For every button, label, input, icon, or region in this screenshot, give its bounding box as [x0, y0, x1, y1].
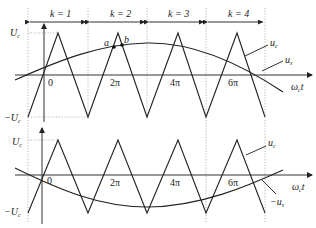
interval-label-k1: k = 1 — [50, 8, 71, 19]
bottom-neg-uc-label: −Uc — [4, 206, 21, 218]
point-a — [112, 45, 116, 49]
interval-label-k4: k = 4 — [228, 8, 249, 19]
top-tick-2pi: 2π — [110, 77, 120, 88]
top-tick-4pi: 4π — [170, 77, 180, 88]
top-uc-curve-label: uc — [270, 37, 278, 49]
interval-label-k3: k = 3 — [168, 8, 189, 19]
bottom-tick-4pi: 4π — [170, 177, 180, 188]
top-neg-uc-label: −Uc — [4, 112, 21, 124]
bottom-tick-6pi: 6π — [228, 177, 238, 188]
bottom-tick-2pi: 2π — [110, 177, 120, 188]
top-tick-6pi: 6π — [228, 77, 238, 88]
bottom-neg-signal-curve — [15, 168, 283, 207]
point-b-label: b — [124, 34, 129, 45]
bottom-x-axis-label: ωct — [292, 181, 305, 193]
top-us-curve-label: us — [285, 54, 293, 66]
bottom-uc-curve-label: uc — [268, 137, 276, 149]
bottom-uc-label: Uc — [12, 136, 22, 148]
interval-label-k2: k = 2 — [110, 8, 131, 19]
bottom-neg-us-curve-label: −us — [270, 196, 285, 208]
top-x-axis-label: ωct — [291, 81, 304, 93]
point-a-label: a — [104, 37, 109, 48]
pwm-diagram: k = 1 k = 2 k = 3 k = 4 a b Uc −Uc 0 2π … — [0, 0, 316, 228]
top-panel: k = 1 k = 2 k = 3 k = 4 a b Uc −Uc 0 2π … — [4, 8, 312, 124]
bottom-origin-label: 0 — [47, 175, 52, 186]
top-origin-label: 0 — [48, 77, 53, 88]
top-uc-label: Uc — [10, 27, 20, 39]
bottom-panel: Uc −Uc 0 2π 4π 6π uc −us ωct — [4, 128, 312, 224]
